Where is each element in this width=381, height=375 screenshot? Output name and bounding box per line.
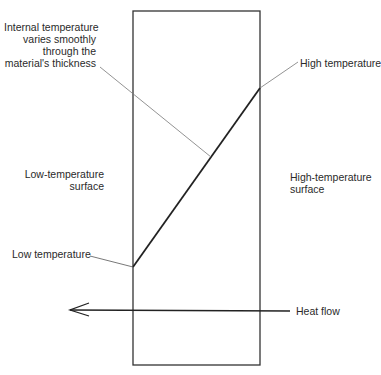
high-temperature-label: High temperature — [300, 57, 381, 69]
low-surface-line-2: surface — [14, 180, 104, 192]
low-temperature-leader — [90, 256, 133, 267]
heat-flow-label: Heat flow — [296, 305, 340, 317]
material-slab — [133, 11, 260, 365]
high-surface-line-1: High-temperature — [290, 171, 372, 183]
internal-label-leader — [100, 67, 211, 157]
high-temperature-leader — [260, 62, 298, 88]
temperature-gradient-line — [133, 88, 260, 267]
internal-label-line-3: through the — [4, 45, 96, 57]
high-temperature-surface-label: High-temperature surface — [290, 171, 372, 195]
low-temperature-label: Low temperature — [12, 248, 91, 260]
low-temperature-surface-label: Low-temperature surface — [14, 168, 104, 192]
high-surface-line-2: surface — [290, 183, 372, 195]
internal-label-line-4: material's thickness — [4, 57, 96, 69]
internal-label-line-2: varies smoothly — [4, 33, 96, 45]
heat-flow-arrow-shaft — [70, 310, 290, 311]
low-surface-line-1: Low-temperature — [14, 168, 104, 180]
internal-temperature-label: Internal temperature varies smoothly thr… — [4, 21, 96, 69]
internal-label-line-1: Internal temperature — [4, 21, 96, 33]
